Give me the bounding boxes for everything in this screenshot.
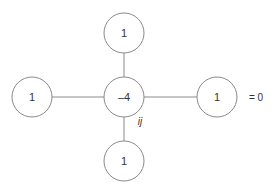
node-right-label: 1 <box>214 91 220 103</box>
stencil-diagram: 1 1 –4 ij 1 1 = 0 <box>0 0 274 192</box>
node-bottom-label: 1 <box>121 155 127 167</box>
node-center-label: –4 <box>118 91 130 103</box>
node-left: 1 <box>12 77 52 117</box>
node-bottom: 1 <box>104 141 144 181</box>
node-left-label: 1 <box>29 91 35 103</box>
equation-label: = 0 <box>249 92 264 103</box>
node-top: 1 <box>104 13 144 53</box>
node-center-subscript: ij <box>138 116 143 127</box>
node-top-label: 1 <box>121 27 127 39</box>
node-right: 1 <box>197 77 237 117</box>
